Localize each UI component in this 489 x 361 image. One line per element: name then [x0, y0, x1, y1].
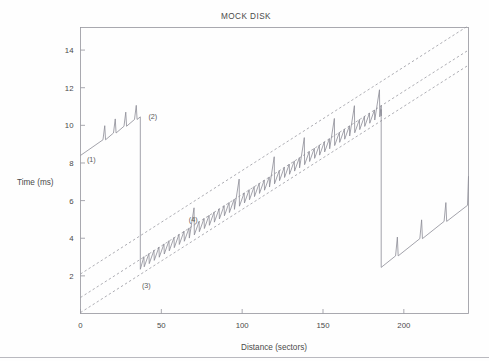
- x-tick-label: 50: [157, 321, 166, 330]
- x-tick-label: 200: [397, 321, 411, 330]
- y-tick-label: 6: [69, 197, 73, 206]
- y-tick-label: 2: [69, 272, 73, 281]
- y-axis-label: Time (ms): [17, 178, 54, 187]
- annotation-3: (3): [142, 281, 151, 290]
- annotation-4: (4): [189, 215, 198, 224]
- y-tick-label: 10: [65, 121, 74, 130]
- chart-figure: MOCK DISK 2468101214 050100150200 Time (…: [0, 0, 489, 361]
- y-tick-label: 14: [65, 46, 74, 55]
- y-tick-label: 4: [69, 234, 74, 243]
- annotation-1: (1): [87, 155, 96, 164]
- y-tick-label: 12: [65, 84, 74, 93]
- y-tick-label: 8: [69, 159, 73, 168]
- x-tick-label: 0: [78, 321, 83, 330]
- mock-disk-chart: MOCK DISK 2468101214 050100150200 Time (…: [0, 0, 489, 361]
- x-axis-label: Distance (sectors): [241, 343, 307, 352]
- x-tick-label: 100: [236, 321, 250, 330]
- x-tick-label: 150: [316, 321, 330, 330]
- chart-title: MOCK DISK: [221, 12, 271, 21]
- annotation-2: (2): [148, 112, 157, 121]
